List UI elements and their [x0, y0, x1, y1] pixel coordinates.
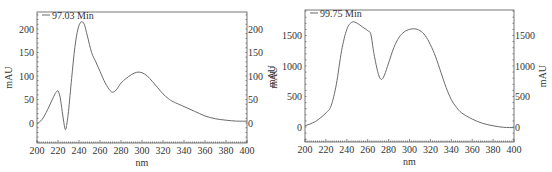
x-tick-label: 200	[30, 145, 45, 156]
x-tick-label: 280	[381, 144, 396, 155]
x-tick-label: 340	[177, 145, 192, 156]
y-tick-label-right: 150	[248, 47, 263, 58]
x-tick-label: 200	[298, 144, 313, 155]
y-tick-label-right: 0	[248, 118, 253, 129]
x-tick-label: 240	[72, 145, 87, 156]
y-tick-label-right: 1000	[515, 61, 535, 72]
y-tick-label-left: 0	[29, 118, 34, 129]
x-axis-title: nm	[403, 156, 416, 167]
y-tick-label-left: 200	[19, 24, 34, 35]
y-tick-label-left: 500	[287, 91, 302, 102]
x-tick-label: 360	[465, 144, 480, 155]
y-tick-label-left: 100	[19, 71, 34, 82]
legend-label: 99.75 Min	[320, 8, 362, 19]
y-tick-label-right: 200	[248, 24, 263, 35]
x-tick-label: 400	[507, 144, 522, 155]
x-tick-label: 360	[198, 145, 213, 156]
x-tick-label: 280	[114, 145, 129, 156]
y-tick-label-left: 1500	[282, 30, 302, 41]
x-tick-label: 340	[444, 144, 459, 155]
x-tick-label: 320	[423, 144, 438, 155]
uv-spectra-figure: 200220240260280300320340360380400nm00505…	[0, 0, 552, 172]
y-tick-label-left: 150	[19, 47, 34, 58]
plot-frame	[37, 12, 247, 143]
y-tick-label-right: 1500	[515, 30, 535, 41]
y-tick-label-right: 500	[515, 91, 530, 102]
x-tick-label: 220	[51, 145, 66, 156]
y-tick-label-left: 0	[297, 122, 302, 133]
spectrum-curve	[37, 22, 247, 130]
x-tick-label: 300	[402, 144, 417, 155]
y-tick-label-right: 100	[248, 71, 263, 82]
y-tick-label-right: 50	[248, 94, 258, 105]
x-tick-label: 300	[135, 145, 150, 156]
x-tick-label: 260	[93, 145, 108, 156]
y-tick-label-left: 1000	[282, 61, 302, 72]
y-tick-label-right: 0	[515, 122, 520, 133]
legend-label: 97.03 Min	[52, 10, 94, 21]
y-axis-title-left: mAU	[3, 66, 14, 89]
x-tick-label: 320	[156, 145, 171, 156]
spectrum-curve	[305, 22, 514, 128]
x-tick-label: 400	[240, 145, 255, 156]
x-tick-label: 380	[219, 145, 234, 156]
x-tick-label: 240	[339, 144, 354, 155]
x-tick-label: 260	[360, 144, 375, 155]
spectrum-chart-99-min: 200220240260280300320340360380400nm00500…	[266, 8, 548, 168]
y-axis-title-left: mAU	[266, 64, 277, 87]
x-tick-label: 380	[486, 144, 501, 155]
x-tick-label: 220	[318, 144, 333, 155]
x-axis-title: nm	[136, 157, 149, 168]
y-tick-label-left: 50	[24, 94, 34, 105]
y-axis-title-right: mAU	[537, 64, 548, 87]
spectrum-chart-97-min: 200220240260280300320340360380400nm00505…	[3, 10, 279, 169]
